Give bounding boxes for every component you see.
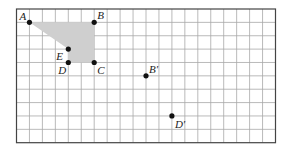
point-label: E: [55, 50, 63, 62]
point-dot: [92, 20, 97, 25]
point-label: C: [97, 64, 105, 76]
point-dot: [92, 60, 97, 65]
point-label: B′: [149, 63, 159, 75]
coordinate-grid-diagram: ABCDEB′D′: [0, 0, 288, 151]
point-dot: [143, 73, 148, 78]
point-dot: [66, 60, 71, 65]
point-a: A: [18, 10, 32, 25]
point-label: B: [97, 9, 104, 21]
point-label: D′: [174, 118, 186, 130]
point-dot: [66, 47, 71, 52]
point-label: A: [18, 10, 26, 22]
point-dot: [169, 113, 174, 118]
point-dot: [27, 20, 32, 25]
point-label: D: [57, 64, 66, 76]
